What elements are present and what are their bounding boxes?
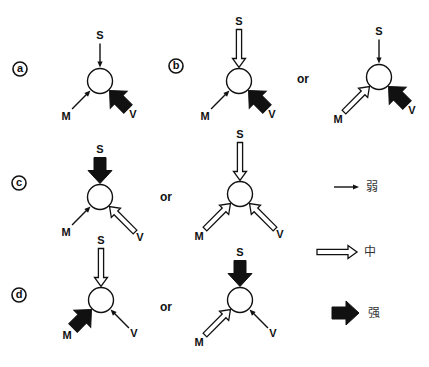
panel-d-variant-1: SMV xyxy=(62,234,138,340)
s-arrow xyxy=(233,30,246,68)
or-label: or xyxy=(160,190,172,204)
s-label: S xyxy=(97,234,104,246)
s-label: S xyxy=(236,246,243,258)
panel-letter: d xyxy=(16,288,23,300)
node-circle xyxy=(227,69,252,94)
v-label: V xyxy=(408,104,416,116)
panel-letter: b xyxy=(173,59,180,71)
s-label: S xyxy=(236,128,243,140)
m-arrow xyxy=(200,199,235,234)
v-arrow xyxy=(248,308,270,330)
panel-a-variant-1: SMV xyxy=(61,29,137,121)
panel-c-variant-2: SMV xyxy=(194,128,284,242)
m-label: M xyxy=(61,110,70,122)
v-label: V xyxy=(268,108,276,120)
m-label: M xyxy=(194,336,203,348)
v-arrow xyxy=(245,199,280,234)
s-label: S xyxy=(235,15,242,27)
m-arrow xyxy=(70,205,92,227)
or-label: or xyxy=(297,72,309,86)
panel-letter: c xyxy=(16,176,22,188)
node-circle xyxy=(89,288,114,313)
node-circle xyxy=(88,185,113,210)
or-label: or xyxy=(160,300,172,314)
m-label: M xyxy=(200,110,209,122)
panel-d-variant-2: SMV xyxy=(194,246,277,348)
node-circle xyxy=(367,65,392,90)
m-label: M xyxy=(62,329,71,341)
node-circle xyxy=(88,69,113,94)
m-arrow xyxy=(200,305,235,340)
m-label: M xyxy=(61,226,70,238)
legend-hollow-arrow xyxy=(317,246,357,259)
legend-item-weak: 弱 xyxy=(334,180,378,194)
legend-thin-arrow xyxy=(334,184,359,189)
panel-label-a: a xyxy=(13,62,27,76)
panel-label-d: d xyxy=(12,288,26,302)
s-label: S xyxy=(96,29,103,41)
s-arrow xyxy=(376,40,381,64)
v-label: V xyxy=(269,327,277,339)
legend-label: 中 xyxy=(364,244,376,259)
panel-label-b: b xyxy=(169,59,183,73)
m-label: M xyxy=(333,113,342,125)
diagram-canvas: aSMVbSMVSMVorcSMVSMVordSMVSMVor弱中强 xyxy=(0,0,429,367)
s-arrow xyxy=(97,44,102,68)
legend-item-strong: 强 xyxy=(332,301,380,325)
v-label: V xyxy=(129,108,137,120)
v-label: V xyxy=(130,327,138,339)
legend-filled-arrow xyxy=(332,301,359,325)
m-arrow xyxy=(209,89,231,111)
s-label: S xyxy=(375,25,382,37)
panel-label-c: c xyxy=(12,176,26,190)
panel-letter: a xyxy=(17,62,24,74)
v-label: V xyxy=(136,231,144,243)
m-label: M xyxy=(194,230,203,242)
panel-b-variant-2: SMV xyxy=(333,25,416,125)
legend-label: 弱 xyxy=(366,180,378,194)
node-circle xyxy=(228,182,253,207)
panel-b-variant-1: SMV xyxy=(200,15,276,121)
s-arrow xyxy=(234,143,247,181)
legend-item-medium: 中 xyxy=(317,244,376,259)
panel-c-variant-1: SMV xyxy=(61,143,144,243)
s-arrow xyxy=(228,261,252,287)
v-arrow xyxy=(105,202,140,237)
m-arrow xyxy=(339,82,374,117)
s-arrow xyxy=(95,249,108,287)
v-arrow xyxy=(109,308,131,330)
v-label: V xyxy=(276,228,284,240)
s-arrow xyxy=(88,158,112,184)
legend-label: 强 xyxy=(368,306,380,320)
s-label: S xyxy=(96,143,103,155)
node-circle xyxy=(228,288,253,313)
m-arrow xyxy=(70,89,92,111)
